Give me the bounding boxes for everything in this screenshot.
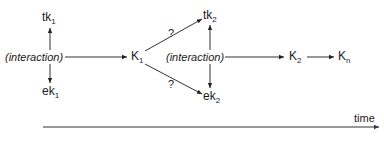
node-tk2-sub: 2: [212, 15, 216, 24]
node-tk1-base: tk: [42, 10, 51, 24]
node-ek1-sub: 1: [55, 91, 59, 100]
node-ek2-sub: 2: [216, 96, 220, 105]
node-tk2: tk2: [203, 8, 217, 27]
node-k2: K2: [289, 49, 301, 68]
node-kn: Kn: [338, 49, 350, 68]
node-k1-sub: 1: [139, 56, 143, 65]
node-kn-sub: n: [346, 56, 350, 65]
node-ek2: ek2: [203, 89, 220, 108]
time-axis-label: time: [354, 111, 375, 125]
node-tk1: tk1: [42, 10, 56, 29]
uncertain-label-upper: ?: [168, 26, 174, 40]
node-tk1-sub: 1: [51, 17, 55, 26]
diagram-canvas: [0, 0, 384, 149]
node-interaction1: (interaction): [5, 50, 63, 64]
node-k2-sub: 2: [297, 56, 301, 65]
node-tk2-base: tk: [203, 8, 212, 22]
node-k2-base: K: [289, 49, 297, 63]
node-ek2-base: ek: [203, 89, 216, 103]
node-kn-base: K: [338, 49, 346, 63]
node-ek1: ek1: [42, 84, 59, 103]
node-k1: K1: [131, 49, 143, 68]
uncertain-label-lower: ?: [168, 77, 174, 91]
node-k1-base: K: [131, 49, 139, 63]
node-interaction2: (interaction): [166, 50, 224, 64]
node-ek1-base: ek: [42, 84, 55, 98]
